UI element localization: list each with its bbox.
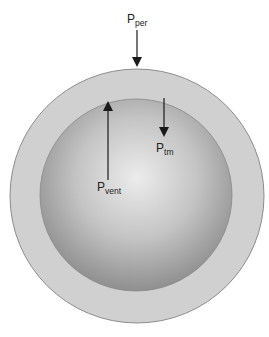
p-per-arrow-icon [132,30,142,67]
ventricle-pressure-diagram: Pper Ptm Pvent [0,0,269,337]
inner-chamber-circle [40,99,232,291]
p-per-label: Pper [127,12,147,28]
